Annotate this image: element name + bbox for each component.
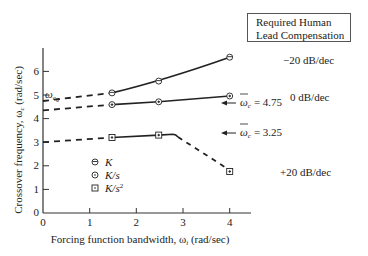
x-tick-labels: 0 1 2 3 4 [40,216,233,228]
rate-ks2-label: +20 dB/dec [280,166,331,178]
svg-text:1: 1 [87,216,93,228]
rate-ks-label: 0 dB/dec [290,91,330,103]
svg-text:6: 6 [34,65,40,77]
svg-text:ωc= 4.75: ωc= 4.75 [240,96,283,110]
box-title-line-1: Required Human [256,16,350,29]
svg-text:4: 4 [227,216,233,228]
rate-k-label: −20 dB/dec [283,54,334,66]
svg-text:5: 5 [34,89,40,101]
legend-item-ks2: K/s2 [92,182,124,194]
ticks [43,71,230,213]
svg-text:1: 1 [34,183,40,195]
legend-item-k: K [92,156,113,168]
svg-text:3: 3 [34,136,40,148]
svg-text:3: 3 [180,216,186,228]
y-tick-labels: 0 1 2 3 4 5 6 [34,65,40,218]
series-ks2 [43,134,228,169]
arrow-left-icon [221,101,227,106]
series-ks2-markers [109,132,233,174]
svg-text:2: 2 [34,159,40,171]
svg-text:ωc= 3.25: ωc= 3.25 [240,126,283,140]
legend: K K/s K/s2 [92,156,124,194]
y-axis-title: Crossover frequency, ωc (rad/sec) [12,66,26,214]
series-k [43,57,230,101]
axes [43,48,251,213]
arrow-left-icon [221,131,227,136]
svg-text:0: 0 [40,216,46,228]
svg-text:K/s2: K/s2 [104,182,124,194]
avg-annotation-3-25: ωc= 3.25 [221,124,283,140]
box-title-line-2: Lead Compensation [256,29,350,42]
lead-compensation-box: Required Human Lead Compensation [247,13,351,42]
svg-text:K: K [104,156,113,168]
svg-text:0: 0 [34,206,40,218]
svg-text:K/s: K/s [104,169,120,181]
legend-item-ks: K/s [92,169,120,181]
series-ks [43,96,230,110]
x-axis-title: Forcing function bandwidth, ωi (rad/sec) [51,233,230,247]
svg-text:2: 2 [134,216,140,228]
svg-text:4: 4 [34,112,40,124]
